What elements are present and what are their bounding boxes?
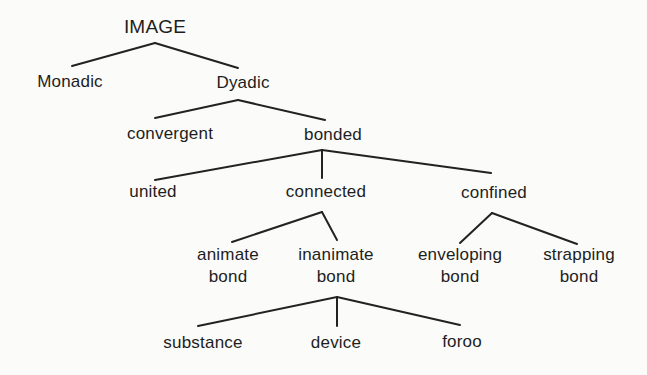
node-substance: substance [163, 332, 242, 354]
node-monadic: Monadic [37, 71, 103, 93]
node-label-line1: enveloping [418, 244, 502, 266]
node-inanimate-bond: inanimate bond [298, 244, 374, 288]
node-label: Dyadic [216, 72, 269, 94]
node-force: foroo [442, 331, 482, 353]
edge-confined-enveloping [460, 213, 492, 243]
node-label-line1: animate [197, 244, 259, 266]
node-label: device [311, 332, 361, 354]
edge-dyadic-bonded [238, 100, 325, 120]
node-label-line2: bond [418, 266, 502, 288]
node-label: connected [286, 181, 366, 203]
node-label: IMAGE [124, 16, 186, 38]
tree-diagram: IMAGE Monadic Dyadic convergent bonded u… [0, 0, 647, 375]
node-connected: connected [286, 181, 366, 203]
node-label-line1: inanimate [298, 244, 374, 266]
node-label-line1: strapping [543, 244, 615, 266]
edge-bonded-united [155, 150, 322, 180]
node-united: united [129, 181, 177, 203]
edge-image-dyadic [155, 43, 238, 68]
node-label: confined [461, 182, 527, 204]
node-dyadic: Dyadic [216, 72, 269, 94]
node-label: Monadic [37, 71, 103, 93]
node-label-line2: bond [298, 266, 374, 288]
node-label: substance [163, 332, 242, 354]
node-confined: confined [461, 182, 527, 204]
node-label: bonded [304, 124, 362, 146]
node-bonded: bonded [304, 124, 362, 146]
node-label-line2: bond [197, 266, 259, 288]
node-animate-bond: animate bond [197, 244, 259, 288]
edge-inanimate-force [337, 297, 460, 325]
node-convergent: convergent [127, 123, 213, 145]
node-label: convergent [127, 123, 213, 145]
node-strapping-bond: strapping bond [543, 244, 615, 288]
edge-dyadic-convergent [155, 100, 238, 118]
edge-connected-inanimate [322, 212, 337, 240]
node-enveloping-bond: enveloping bond [418, 244, 502, 288]
node-label: foroo [442, 331, 482, 353]
edge-image-monadic [72, 43, 155, 66]
node-device: device [311, 332, 361, 354]
node-label: united [129, 181, 177, 203]
node-image: IMAGE [124, 16, 186, 38]
edge-confined-strapping [492, 213, 577, 244]
edge-connected-animate [232, 212, 322, 242]
edge-bonded-confined [322, 150, 491, 173]
node-label-line2: bond [543, 266, 615, 288]
edge-inanimate-substance [198, 297, 337, 326]
